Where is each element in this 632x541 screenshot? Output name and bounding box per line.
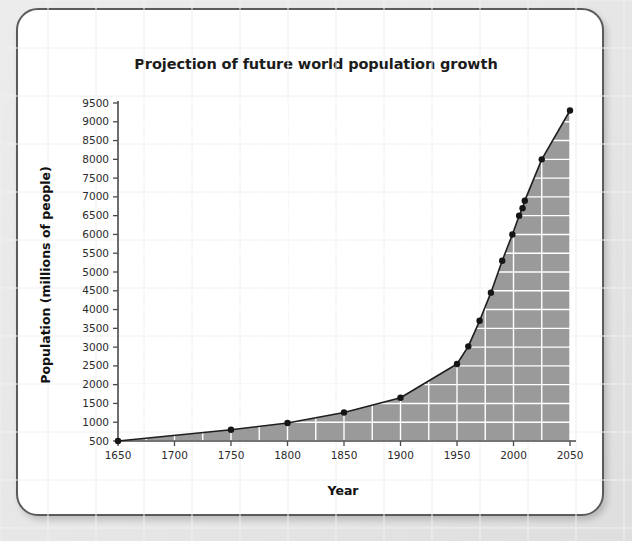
y-tick-label: 3000: [82, 341, 109, 353]
y-tick-label: 1000: [82, 416, 109, 428]
data-point-marker: [228, 427, 234, 433]
y-tick-label: 2500: [82, 359, 109, 371]
x-axis-title: Year: [327, 483, 360, 498]
y-tick-label: 4000: [82, 303, 109, 315]
data-point-marker: [284, 420, 290, 426]
x-tick-label: 2000: [500, 449, 527, 461]
x-tick-label: 1950: [444, 449, 471, 461]
data-point-marker: [567, 107, 573, 113]
data-point-marker: [509, 231, 515, 237]
y-tick-label: 6000: [82, 228, 109, 240]
data-point-marker: [488, 289, 494, 295]
y-tick-label: 7000: [82, 190, 109, 202]
y-tick-label: 4500: [82, 284, 109, 296]
data-point-marker: [397, 395, 403, 401]
data-point-marker: [522, 197, 528, 203]
y-tick-label: 5000: [82, 266, 109, 278]
data-point-marker: [465, 343, 471, 349]
y-tick-label: 2000: [82, 378, 109, 390]
x-tick-label: 1750: [218, 449, 245, 461]
x-tick-label: 2050: [557, 449, 584, 461]
data-point-marker: [476, 318, 482, 324]
x-tick-label: 1700: [161, 449, 188, 461]
y-tick-label: 3500: [82, 322, 109, 334]
x-tick-labels: 165017001750180018501900195020002050: [105, 449, 584, 461]
y-tick-label: 1500: [82, 397, 109, 409]
y-tick-label: 8000: [82, 153, 109, 165]
data-point-marker: [539, 156, 545, 162]
x-tick-label: 1900: [387, 449, 414, 461]
y-tick-label: 6500: [82, 209, 109, 221]
data-point-marker: [499, 258, 505, 264]
y-tick-label: 5500: [82, 247, 109, 259]
y-tick-label: 9000: [82, 115, 109, 127]
data-point-marker: [454, 361, 460, 367]
x-tick-label: 1850: [331, 449, 358, 461]
x-tick-label: 1650: [105, 449, 132, 461]
data-point-marker: [519, 205, 525, 211]
x-tick-label: 1800: [274, 449, 301, 461]
y-tick-label: 8500: [82, 134, 109, 146]
y-tick-label: 9500: [82, 97, 109, 109]
y-tick-label: 7500: [82, 172, 109, 184]
y-tick-label: 500: [89, 435, 109, 447]
data-point-marker: [115, 438, 121, 444]
y-axis-title: Population (millions of people): [38, 166, 53, 383]
data-point-marker: [341, 409, 347, 415]
population-area-chart: 5001000150020002500300035004000450050005…: [0, 0, 632, 541]
data-point-marker: [516, 212, 522, 218]
chart-container: Projection of future world population gr…: [0, 0, 632, 541]
